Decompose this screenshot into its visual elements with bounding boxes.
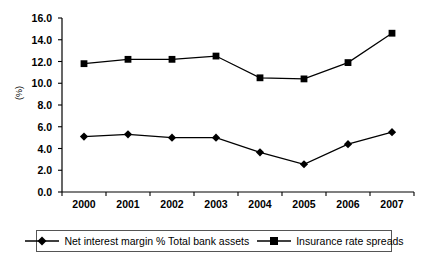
x-axis-tick-label: 2007 — [370, 198, 414, 210]
square-marker-icon — [256, 235, 292, 247]
legend-label: Net interest margin % Total bank assets — [64, 235, 249, 247]
y-axis-tick-label: 14.0 — [18, 35, 52, 45]
series-insurance-rate-spreads — [81, 30, 396, 82]
x-axis-tick-label: 2001 — [106, 198, 150, 210]
data-point-diamond — [344, 140, 352, 148]
data-point-diamond — [388, 128, 396, 136]
x-axis-tick-label: 2002 — [150, 198, 194, 210]
x-axis-tick-label: 2004 — [238, 198, 282, 210]
data-point-square — [169, 56, 176, 63]
legend-label: Insurance rate spreads — [296, 235, 403, 247]
y-axis-tick-label: 16.0 — [18, 13, 52, 23]
x-axis-tick-label: 2003 — [194, 198, 238, 210]
data-point-diamond — [256, 148, 264, 156]
data-point-diamond — [124, 130, 132, 138]
data-point-square — [125, 56, 132, 63]
y-axis-tick-label: 4.0 — [18, 144, 52, 154]
data-point-square — [213, 53, 220, 60]
data-point-square — [345, 59, 352, 66]
data-point-diamond — [168, 134, 176, 142]
line-chart: (%) 0.02.04.06.08.010.012.014.016.0 2000… — [0, 0, 428, 260]
series-line — [84, 132, 392, 164]
data-point-square — [389, 30, 396, 37]
data-point-diamond — [212, 134, 220, 142]
data-point-square — [81, 60, 88, 67]
y-axis-tick-label: 0.0 — [18, 187, 52, 197]
plot-area — [0, 0, 428, 260]
data-point-square — [301, 76, 308, 83]
y-axis-tick-label: 6.0 — [18, 122, 52, 132]
chart-legend: Net interest margin % Total bank assets … — [36, 230, 392, 252]
y-axis-tick-label: 8.0 — [18, 100, 52, 110]
data-point-diamond — [80, 132, 88, 140]
y-axis-tick-label: 12.0 — [18, 57, 52, 67]
y-axis-tick-label: 10.0 — [18, 78, 52, 88]
x-axis-tick-label: 2006 — [326, 198, 370, 210]
y-axis-tick-label: 2.0 — [18, 165, 52, 175]
series-net-interest-margin — [80, 128, 396, 168]
diamond-marker-icon — [24, 235, 60, 247]
legend-item-insurance-rate-spreads: Insurance rate spreads — [256, 235, 403, 247]
x-axis-tick-label: 2005 — [282, 198, 326, 210]
data-point-diamond — [300, 160, 308, 168]
legend-item-net-interest-margin: Net interest margin % Total bank assets — [24, 235, 249, 247]
x-axis-tick-label: 2000 — [62, 198, 106, 210]
data-point-square — [257, 74, 264, 81]
